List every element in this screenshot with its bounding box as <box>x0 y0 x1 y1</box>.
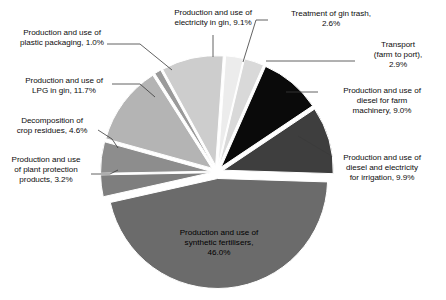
callout-plastic-packaging: Production and use of plastic packaging,… <box>14 28 110 48</box>
synthetic-fertilisers-label-line3: 46.0% <box>208 248 231 257</box>
callout-electricity-in-gin: Production and use of electricity in gin… <box>148 8 278 28</box>
leader-line-plastic-packaging <box>107 44 172 70</box>
callout-crop-residues: Decomposition of crop residues, 4.6% <box>4 116 100 136</box>
callout-lpg-in-gin: Production and use of LPG in gin, 11.7% <box>12 76 116 96</box>
pie-chart-figure: Production and use of synthetic fertilis… <box>0 0 446 300</box>
synthetic-fertilisers-label-line1: Production and use of <box>180 228 259 237</box>
callout-plant-protection: Production and use of plant protection p… <box>2 155 90 186</box>
callout-diesel-farm-machinery: Production and use of diesel for farm ma… <box>322 86 442 117</box>
callout-diesel-irrigation: Production and use of diesel and electri… <box>320 153 444 184</box>
callout-transport: Transport (farm to port), 2.9% <box>352 40 444 71</box>
synthetic-fertilisers-label-line2: synthetic fertilisers, <box>185 238 254 247</box>
callout-gin-trash: Treatment of gin trash, 2.6% <box>273 9 389 29</box>
